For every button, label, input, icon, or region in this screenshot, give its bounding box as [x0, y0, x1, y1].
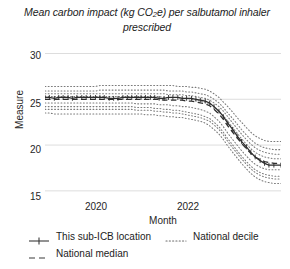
- legend-label-this-sub-icb-location: This sub-ICB location: [56, 231, 151, 242]
- legend-item-this-sub-icb-location[interactable]: This sub-ICB location: [28, 231, 151, 242]
- legend-row-1: This sub-ICB location National decile: [28, 228, 286, 245]
- legend-swatch-dotted: [165, 232, 187, 242]
- legend-swatch-dashed: [28, 249, 50, 259]
- y-tick-15: 15: [30, 191, 41, 202]
- legend-item-national-decile[interactable]: National decile: [165, 231, 259, 242]
- chart-title-prefix: Mean carbon impact (kg CO: [24, 6, 153, 18]
- x-axis-title: Month: [45, 215, 281, 226]
- y-tick-30: 30: [30, 50, 41, 61]
- chart-legend: This sub-ICB location National decile Na: [28, 228, 286, 262]
- legend-item-national-median[interactable]: National median: [28, 248, 128, 259]
- legend-label-national-median: National median: [56, 248, 128, 259]
- x-tick-2022: 2022: [177, 201, 199, 212]
- chart-plot-svg: [45, 48, 281, 200]
- x-axis-tick-labels: 2020 2022: [45, 201, 281, 215]
- x-tick-2020: 2020: [85, 201, 107, 212]
- y-tick-25: 25: [30, 98, 41, 109]
- chart-title: Mean carbon impact (kg CO2e) per salbuta…: [18, 6, 276, 34]
- legend-label-national-decile: National decile: [193, 231, 259, 242]
- y-tick-20: 20: [30, 144, 41, 155]
- y-axis-title: Measure: [14, 65, 25, 155]
- plot-area: [45, 48, 281, 200]
- legend-swatch-solid-marker: [28, 232, 50, 242]
- legend-row-2: National median: [28, 245, 286, 262]
- chart-root: Mean carbon impact (kg CO2e) per salbuta…: [0, 0, 290, 269]
